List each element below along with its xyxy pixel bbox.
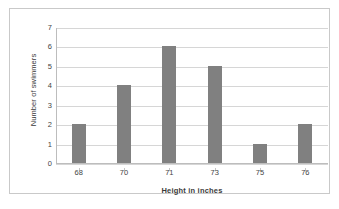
- y-axis-tick-label: 5: [38, 63, 52, 71]
- bar-series: [56, 28, 328, 164]
- y-axis-tick-label: 4: [38, 82, 52, 90]
- x-axis-title: Height in inches: [56, 186, 328, 195]
- bar: [253, 144, 267, 163]
- y-axis-tick-label: 6: [38, 43, 52, 51]
- y-axis-tick-label: 2: [38, 121, 52, 129]
- plot-area: [56, 28, 328, 164]
- bar: [72, 124, 86, 163]
- bar: [298, 124, 312, 163]
- y-axis-tick-label: 1: [38, 141, 52, 149]
- y-axis-tick-label: 3: [38, 102, 52, 110]
- gridline: [56, 164, 328, 165]
- x-axis-tick-label: 70: [109, 168, 139, 178]
- y-axis-tick-label: 7: [38, 24, 52, 32]
- x-axis-tick-labels: 687071737576: [56, 168, 328, 178]
- x-axis-tick-label: 75: [245, 168, 275, 178]
- bar: [117, 85, 131, 163]
- bar: [208, 66, 222, 163]
- bar: [162, 46, 176, 163]
- x-axis-tick-label: 71: [154, 168, 184, 178]
- x-axis-tick-label: 68: [64, 168, 94, 178]
- x-axis-tick-label: 73: [200, 168, 230, 178]
- y-axis-tick-label: 0: [38, 160, 52, 168]
- x-axis-tick-label: 76: [290, 168, 320, 178]
- y-axis-tick-labels: 01234567: [38, 28, 52, 164]
- chart-frame: Number of swimmers 01234567 687071737576…: [9, 8, 330, 194]
